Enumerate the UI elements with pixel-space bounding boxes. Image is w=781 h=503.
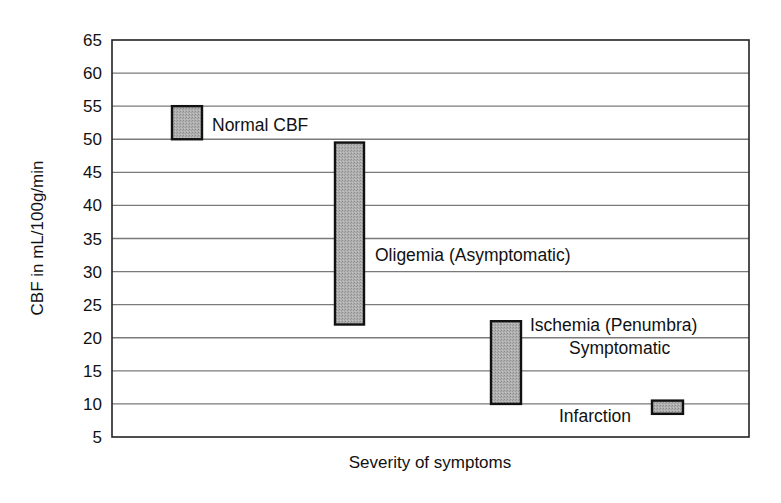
label-oligemia: Oligemia (Asymptomatic) xyxy=(375,245,570,265)
label-normal-cbf: Normal CBF xyxy=(212,115,308,135)
y-tick-label: 45 xyxy=(83,163,102,182)
y-tick-label: 35 xyxy=(83,230,102,249)
y-tick-label: 55 xyxy=(83,97,102,116)
y-tick-label: 30 xyxy=(83,263,102,282)
x-axis-title: Severity of symptoms xyxy=(349,453,512,472)
y-tick-label: 60 xyxy=(83,64,102,83)
y-tick-label: 5 xyxy=(93,428,102,447)
range-bar xyxy=(335,143,364,325)
y-tick-label: 65 xyxy=(83,31,102,50)
label-ischemia: Ischemia (Penumbra) xyxy=(530,315,697,335)
y-tick-label: 10 xyxy=(83,395,102,414)
cbf-chart: 5101520253035404550556065 Normal CBF Oli… xyxy=(0,0,781,503)
range-bar xyxy=(652,401,683,414)
range-bar xyxy=(491,321,521,404)
y-axis-title: CBF in mL/100g/min xyxy=(28,161,47,316)
range-bar xyxy=(172,106,202,139)
y-tick-label: 15 xyxy=(83,362,102,381)
y-tick-label: 25 xyxy=(83,296,102,315)
y-tick-label: 50 xyxy=(83,130,102,149)
y-axis-ticks: 5101520253035404550556065 xyxy=(83,31,102,447)
label-ischemia-symptomatic: Symptomatic xyxy=(569,338,670,358)
y-tick-label: 40 xyxy=(83,196,102,215)
label-infarction: Infarction xyxy=(559,406,631,426)
y-tick-label: 20 xyxy=(83,329,102,348)
